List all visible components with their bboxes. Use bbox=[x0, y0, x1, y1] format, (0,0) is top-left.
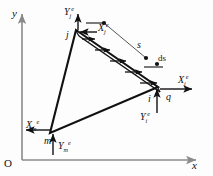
arc-length-label-s: s bbox=[137, 40, 141, 50]
node-label-i: i bbox=[148, 94, 151, 104]
differential-label-ds: ds bbox=[158, 54, 166, 63]
force-label-Xj: Xje bbox=[98, 22, 109, 36]
force-label-Yj: Yje bbox=[64, 6, 74, 20]
load-label-q: q bbox=[166, 92, 171, 102]
force-label-Xi: Xie bbox=[178, 74, 189, 88]
force-label-Yi: Yie bbox=[140, 111, 150, 125]
figure-canvas: y x O j i m Xje Yje Xie Yie Xme Yme s ds… bbox=[0, 0, 213, 176]
axis-x-label: x bbox=[192, 160, 197, 171]
node-label-m: m bbox=[44, 136, 51, 146]
force-label-Ym: Yme bbox=[58, 140, 71, 154]
axis-origin-label: O bbox=[4, 158, 12, 169]
node-label-j: j bbox=[66, 30, 69, 40]
force-label-Xm: Xme bbox=[26, 119, 39, 133]
axis-y-label: y bbox=[12, 8, 17, 19]
